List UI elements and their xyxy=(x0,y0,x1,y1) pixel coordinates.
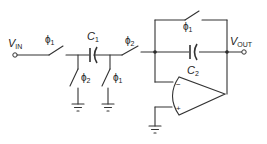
switch-shunt-right-phi1 xyxy=(102,69,110,86)
opamp-plus-label: + xyxy=(176,104,181,113)
phi1-input-label: ϕ1 xyxy=(45,34,55,46)
opamp-minus-label: − xyxy=(176,80,181,89)
switch-input-phi1 xyxy=(49,46,63,55)
circuit-diagram: VIN ϕ1 C1 ϕ2 ϕ2 ϕ1 ϕ1 C2 VOUT − + xyxy=(0,0,267,144)
vout-terminal xyxy=(242,50,246,54)
phi2-shunt-label: ϕ2 xyxy=(81,72,91,84)
ground-icon xyxy=(102,104,114,111)
switch-reset-phi1 xyxy=(185,11,199,20)
c1-label: C1 xyxy=(87,30,99,43)
switch-shunt-left-phi2 xyxy=(70,69,78,86)
ground-icon xyxy=(72,104,84,111)
phi2-series-label: ϕ2 xyxy=(125,35,135,47)
ground-icon xyxy=(149,126,161,133)
switch-series-phi2 xyxy=(122,46,138,55)
vin-label: VIN xyxy=(8,37,22,50)
vout-label: VOUT xyxy=(230,35,253,48)
phi1-shunt-label: ϕ1 xyxy=(113,72,123,84)
c2-label: C2 xyxy=(187,64,199,77)
phi1-reset-label: ϕ1 xyxy=(183,21,193,33)
